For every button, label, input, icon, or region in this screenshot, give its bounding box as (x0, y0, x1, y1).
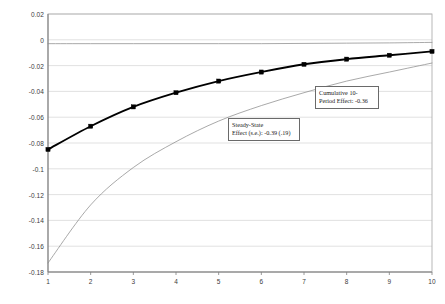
data-point-marker (259, 70, 263, 74)
annotation-line-1: Steady-State (232, 121, 296, 129)
data-point-marker (302, 62, 306, 66)
chart-container: 0.020-0.02-0.04-0.06-0.08-0.1-0.12-0.14-… (0, 0, 445, 304)
x-axis-tick-label: 7 (302, 278, 306, 285)
y-axis-tick-label: -0.1 (32, 165, 44, 172)
y-axis-tick-label: -0.08 (29, 140, 44, 147)
data-point-marker (387, 53, 391, 57)
x-axis-tick-label: 6 (259, 278, 263, 285)
x-axis-tick-label: 5 (217, 278, 221, 285)
annotation-line-1: Cumulative 10- (319, 89, 375, 97)
y-axis-tick-label: -0.14 (29, 217, 44, 224)
chart-plot-svg (0, 0, 445, 304)
x-axis-tick-label: 8 (345, 278, 349, 285)
y-axis-tick-label: -0.16 (29, 243, 44, 250)
annotation-cumulative-effect: Cumulative 10-Period Effect: -0.36 (315, 86, 379, 109)
x-axis-line (48, 272, 432, 275)
x-axis-tick-label: 3 (131, 278, 135, 285)
x-axis-tick-label: 2 (89, 278, 93, 285)
x-axis-tick-label: 4 (174, 278, 178, 285)
x-axis-tick-label: 9 (387, 278, 391, 285)
y-axis-tick-label: -0.04 (29, 88, 44, 95)
data-point-marker (345, 57, 349, 61)
y-axis-tick-label: -0.12 (29, 191, 44, 198)
data-point-marker (46, 147, 50, 151)
x-axis-tick-label: 1 (46, 278, 50, 285)
data-point-marker (217, 79, 221, 83)
annotation-line-2: Effect (s.e.): -0.39 (.19) (232, 129, 296, 137)
data-point-marker (131, 105, 135, 109)
y-axis-tick-label: -0.18 (29, 269, 44, 276)
annotation-line-2: Period Effect: -0.36 (319, 97, 375, 105)
annotation-steady-state-effect: Steady-StateEffect (s.e.): -0.39 (.19) (228, 118, 300, 141)
x-axis-tick-label: 10 (428, 278, 435, 285)
y-axis-tick-label: -0.06 (29, 114, 44, 121)
y-axis-tick-label: -0.02 (29, 62, 44, 69)
data-point-marker (89, 124, 93, 128)
data-point-marker (174, 91, 178, 95)
data-point-marker (430, 49, 434, 53)
y-axis-tick-label: 0 (40, 36, 44, 43)
y-axis-tick-label: 0.02 (31, 11, 44, 18)
